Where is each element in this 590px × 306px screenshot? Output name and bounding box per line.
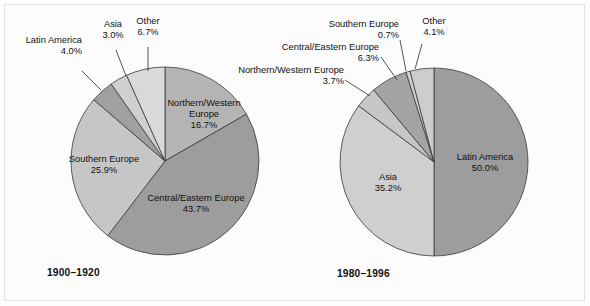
label-asia-right-name: Asia <box>379 172 398 182</box>
label-northern-western-europe-left-pct: 16.7% <box>191 120 217 130</box>
label-asia-left-pct: 3.0% <box>102 30 123 40</box>
leader-line-southern-europe-right <box>400 40 406 71</box>
label-latin-america-left-pct: 4.0% <box>61 46 82 56</box>
period-label-right: 1980–1996 <box>337 268 390 279</box>
left-pie-group: Latin America 4.0% Asia 3.0% Other 6.7% … <box>26 16 259 278</box>
label-southern-europe-right-name: Southern Europe <box>329 19 399 29</box>
label-asia-right-pct: 35.2% <box>375 183 401 193</box>
right-pie-group: Northern/Western Europe 3.7% Central/Eas… <box>238 16 528 279</box>
label-northern-western-europe-right-pct: 3.7% <box>323 76 344 86</box>
leader-line-other-right <box>415 44 422 69</box>
label-other-left-pct: 6.7% <box>137 27 158 37</box>
label-central-eastern-europe-left-name: Central/Eastern Europe <box>147 193 244 203</box>
label-northern-western-europe-left-line2: Europe <box>189 109 219 119</box>
label-southern-europe-left-name: Southern Europe <box>69 154 139 164</box>
label-southern-europe-right-pct: 0.7% <box>378 30 399 40</box>
label-central-eastern-europe-left-pct: 43.7% <box>183 204 209 214</box>
label-other-right-name: Other <box>422 16 445 26</box>
figure-canvas: Latin America 4.0% Asia 3.0% Other 6.7% … <box>0 0 590 306</box>
label-latin-america-right-pct: 50.0% <box>472 163 498 173</box>
label-other-left-name: Other <box>136 16 159 26</box>
pie-slice-latin-america[interactable] <box>434 68 528 256</box>
label-northern-western-europe-left-line1: Northern/Western <box>167 98 240 108</box>
label-central-eastern-europe-right-pct: 6.3% <box>358 53 379 63</box>
leader-line-latin-america-left <box>82 71 101 90</box>
label-latin-america-right-name: Latin America <box>457 152 514 162</box>
right-pie-slices <box>340 68 528 256</box>
leader-line-northern-western-europe-right <box>345 80 370 96</box>
label-other-right-pct: 4.1% <box>423 27 444 37</box>
label-latin-america-left-name: Latin America <box>26 35 83 45</box>
leader-line-asia-left <box>116 50 126 76</box>
pie-chart-figure: Latin America 4.0% Asia 3.0% Other 6.7% … <box>0 0 590 306</box>
leader-line-central-eastern-europe-right <box>381 57 397 80</box>
label-northern-western-europe-right-name: Northern/Western Europe <box>238 65 344 75</box>
period-label-left: 1900–1920 <box>47 267 100 278</box>
label-asia-left-name: Asia <box>104 19 123 29</box>
label-southern-europe-left-pct: 25.9% <box>91 165 117 175</box>
label-central-eastern-europe-right-name: Central/Eastern Europe <box>282 42 379 52</box>
